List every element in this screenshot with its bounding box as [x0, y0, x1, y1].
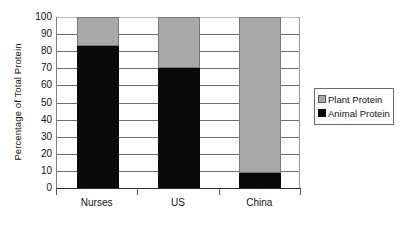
- y-axis-tick-label: 0: [46, 183, 52, 193]
- y-axis-title: Percentage of Total Protein: [13, 17, 23, 187]
- y-axis-tick-label: 30: [41, 132, 52, 142]
- plant-protein-swatch-icon: [318, 95, 326, 103]
- legend-label-plant-protein: Plant Protein: [328, 94, 382, 105]
- x-axis-tick-label: US: [133, 197, 223, 209]
- x-axis-tick-label: China: [214, 197, 304, 209]
- legend-item-plant-protein: Plant Protein: [318, 92, 391, 106]
- y-axis-tick-label: 80: [41, 46, 52, 56]
- x-axis-tick: [219, 188, 220, 195]
- x-axis-line: [56, 188, 301, 189]
- x-axis-tick: [56, 188, 57, 195]
- x-axis-tick: [137, 188, 138, 195]
- plot-area: [56, 17, 300, 188]
- x-axis-tick-labels: NursesUSChina: [56, 197, 300, 217]
- bar-segment: [158, 68, 200, 188]
- x-axis-tick: [300, 188, 301, 195]
- bar-segment: [77, 17, 119, 46]
- y-axis-tick-label: 50: [41, 98, 52, 108]
- bar-group: [239, 17, 281, 188]
- y-axis-tick-labels: 0102030405060708090100: [26, 0, 52, 226]
- bar-segment: [77, 46, 119, 188]
- x-axis-tick-label: Nurses: [52, 197, 142, 209]
- chart-legend: Plant Protein Animal Protein: [314, 88, 394, 125]
- legend-item-animal-protein: Animal Protein: [318, 106, 391, 120]
- y-axis-tick-label: 70: [41, 63, 52, 73]
- y-axis-tick-label: 90: [41, 29, 52, 39]
- legend-label-animal-protein: Animal Protein: [328, 108, 390, 119]
- stacked-bar-chart: Percentage of Total Protein 010203040506…: [0, 0, 404, 226]
- bar-segment: [239, 17, 281, 173]
- bar-segment: [239, 173, 281, 188]
- y-axis-tick-label: 20: [41, 149, 52, 159]
- y-axis-tick-label: 60: [41, 80, 52, 90]
- y-axis-tick-label: 100: [35, 12, 52, 22]
- bar-group: [158, 17, 200, 188]
- bar-group: [77, 17, 119, 188]
- y-axis-tick-label: 40: [41, 115, 52, 125]
- bar-segment: [158, 17, 200, 68]
- y-axis-tick-label: 10: [41, 166, 52, 176]
- animal-protein-swatch-icon: [318, 109, 326, 117]
